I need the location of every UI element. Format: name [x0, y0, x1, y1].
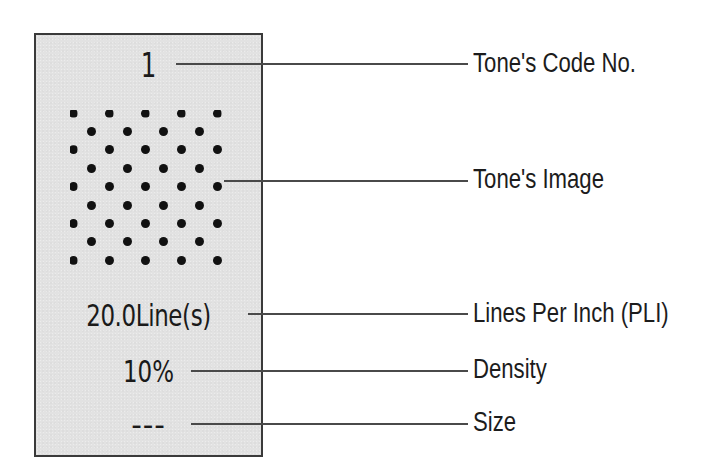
- halftone-dot: [213, 145, 222, 154]
- halftone-dot: [195, 201, 204, 210]
- label-tone-image: Tone's Image: [473, 164, 604, 194]
- halftone-dot: [195, 127, 204, 136]
- halftone-dot: [213, 219, 222, 228]
- label-lines-per-inch: Lines Per Inch (PLI): [473, 298, 669, 328]
- halftone-dot: [105, 145, 114, 154]
- halftone-dot: [69, 109, 78, 118]
- halftone-dot: [177, 109, 186, 118]
- halftone-dot: [141, 109, 150, 118]
- halftone-dot: [177, 219, 186, 228]
- halftone-dot: [141, 145, 150, 154]
- halftone-dot: [123, 164, 132, 173]
- halftone-dot: [87, 164, 96, 173]
- halftone-dot: [105, 219, 114, 228]
- halftone-dot: [105, 182, 114, 191]
- leader-line-code-no: [176, 63, 468, 65]
- halftone-dot: [69, 219, 78, 228]
- halftone-dot: [159, 237, 168, 246]
- leader-line-lines-per-inch: [248, 313, 468, 315]
- halftone-dot: [159, 127, 168, 136]
- leader-line-size: [191, 423, 468, 425]
- halftone-dot: [195, 164, 204, 173]
- halftone-dot: [123, 201, 132, 210]
- halftone-dot: [177, 256, 186, 265]
- tone-image-pattern: [36, 35, 261, 455]
- halftone-dot: [69, 256, 78, 265]
- halftone-dot: [213, 256, 222, 265]
- tone-card: 1 20.0Line(s) 10% ---: [34, 33, 263, 457]
- halftone-dot: [123, 127, 132, 136]
- halftone-dot: [69, 182, 78, 191]
- halftone-dot: [141, 219, 150, 228]
- leader-line-density: [191, 370, 468, 372]
- label-density: Density: [473, 354, 547, 384]
- halftone-dot: [159, 164, 168, 173]
- halftone-dot: [123, 237, 132, 246]
- halftone-dot: [177, 145, 186, 154]
- halftone-dot: [87, 201, 96, 210]
- halftone-dot: [87, 127, 96, 136]
- label-tone-code-no: Tone's Code No.: [473, 48, 636, 78]
- leader-line-image: [224, 180, 468, 182]
- halftone-dot: [195, 237, 204, 246]
- halftone-dot: [141, 182, 150, 191]
- halftone-dot: [105, 109, 114, 118]
- label-size: Size: [473, 407, 516, 437]
- tone-diagram: 1 20.0Line(s) 10% --- Tone's Code No. To…: [0, 0, 726, 473]
- halftone-dot: [213, 182, 222, 191]
- halftone-dot: [141, 256, 150, 265]
- halftone-dot: [69, 145, 78, 154]
- halftone-dot: [177, 182, 186, 191]
- halftone-dot: [87, 237, 96, 246]
- halftone-dot: [159, 201, 168, 210]
- halftone-dot: [105, 256, 114, 265]
- halftone-dot: [213, 109, 222, 118]
- lines-per-inch-value: 20.0Line(s): [65, 298, 232, 332]
